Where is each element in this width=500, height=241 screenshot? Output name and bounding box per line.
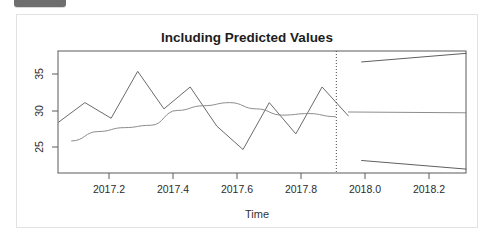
- plot-card: Including Predicted Values 35 30 25 2017…: [16, 14, 478, 228]
- y-axis-ticks: [52, 74, 58, 147]
- y-tick-label: 30: [33, 105, 45, 117]
- timeseries-plot: Including Predicted Values 35 30 25 2017…: [17, 15, 477, 227]
- window-tab-fragment[interactable]: [14, 0, 66, 7]
- series-upper-bound: [362, 53, 466, 62]
- x-tick-label: 2017.2: [93, 183, 125, 195]
- y-axis-labels: 35 30 25: [33, 68, 45, 153]
- x-tick-label: 2018.0: [349, 183, 381, 195]
- x-axis-title: Time: [245, 208, 269, 220]
- x-tick-label: 2017.8: [285, 183, 317, 195]
- x-axis-ticks: [109, 173, 429, 179]
- x-tick-label: 2018.2: [413, 183, 445, 195]
- x-axis-labels: 2017.2 2017.4 2017.6 2017.8 2018.0 2018.…: [93, 183, 445, 195]
- x-tick-label: 2017.4: [157, 183, 189, 195]
- series-layer: [59, 53, 466, 169]
- series-forecast-mean: [348, 112, 466, 113]
- series-lower-bound: [362, 160, 466, 169]
- page-title: Including Predicted Values: [161, 30, 333, 45]
- series-fitted: [72, 103, 336, 141]
- series-observed: [59, 71, 349, 149]
- y-tick-label: 35: [33, 68, 45, 80]
- y-tick-label: 25: [33, 141, 45, 153]
- x-tick-label: 2017.6: [221, 183, 253, 195]
